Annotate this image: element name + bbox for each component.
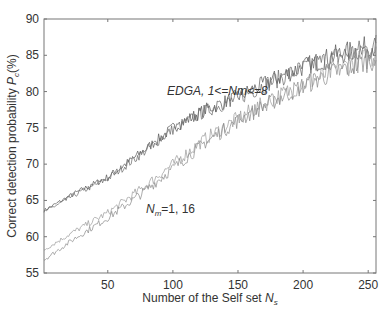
plot-area-frame: [44, 19, 376, 273]
annotation-edga: EDGA, 1<=Nm<=8: [167, 84, 268, 98]
x-axis-label: Number of the Self set Ns: [142, 291, 277, 307]
y-tick-label: 65: [26, 193, 40, 207]
annotation-nm: Nm=1, 16: [146, 202, 195, 218]
y-tick-label: 55: [26, 266, 40, 280]
series-layer: [44, 35, 376, 260]
y-tick-label: 75: [26, 121, 40, 135]
y-tick-label: 85: [26, 48, 40, 62]
x-tick-label: 250: [358, 278, 378, 292]
y-axis-label: Correct detection probability Pc(%): [5, 54, 21, 237]
x-tick-label: 100: [163, 278, 183, 292]
series-line: [44, 35, 376, 212]
line-chart: 5560657075808590 50100150200250 Number o…: [0, 0, 387, 310]
series-line: [44, 38, 376, 211]
x-tick-label: 200: [293, 278, 313, 292]
y-tick-label: 80: [26, 85, 40, 99]
series-line: [44, 47, 376, 261]
series-line: [44, 49, 376, 250]
y-tick-label: 90: [26, 12, 40, 26]
x-axis-ticks: 50100150200250: [101, 19, 378, 292]
x-tick-label: 150: [228, 278, 248, 292]
x-tick-label: 50: [101, 278, 115, 292]
y-tick-label: 70: [26, 157, 40, 171]
y-tick-label: 60: [26, 230, 40, 244]
